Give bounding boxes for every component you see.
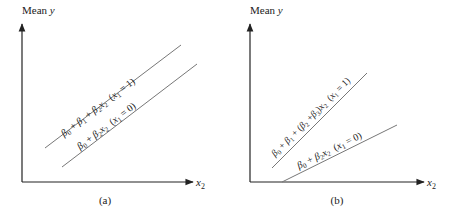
x-axis-label: x2 [426,176,436,191]
interaction-diagram: Mean y x2 β0 + β1 + β2x2 (x1 = 1) β0 + β… [0,0,451,218]
caption-b: (b) [331,194,344,207]
panel-a: Mean y x2 β0 + β1 + β2x2 (x1 = 1) β0 + β… [22,4,205,207]
y-axis-label: Mean y [250,4,283,16]
caption-a: (a) [99,194,112,207]
x-axis-label: x2 [195,176,205,191]
panel-b: Mean y x2 β0 + β1 + (β2 +β3)x2 (x1 = 1) … [250,4,436,207]
y-axis-label: Mean y [22,4,55,16]
